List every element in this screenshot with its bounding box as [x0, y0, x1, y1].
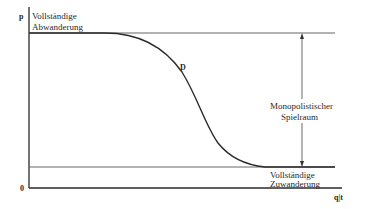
x-axis-label: q|t [334, 193, 343, 203]
upper-bound-label-2: Abwanderung [32, 22, 83, 32]
arrow-down-icon [300, 161, 304, 167]
y-axis-label: p [19, 12, 23, 22]
upper-bound-label-1: Vollständige [32, 11, 77, 21]
range-label-1: Monopolistischer [270, 101, 333, 111]
lower-bound-label-2: Zuwanderung [270, 179, 320, 189]
arrow-up-icon [300, 33, 304, 39]
curve-label: D [180, 63, 186, 73]
origin-label: 0 [20, 184, 24, 194]
range-label-2: Spielraum [281, 112, 318, 122]
